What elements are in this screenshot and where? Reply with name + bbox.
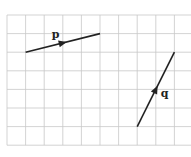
vector-p-label: p	[52, 28, 60, 41]
vector-q-label: q	[161, 87, 169, 100]
vector-grid-diagram: p q	[0, 0, 191, 157]
